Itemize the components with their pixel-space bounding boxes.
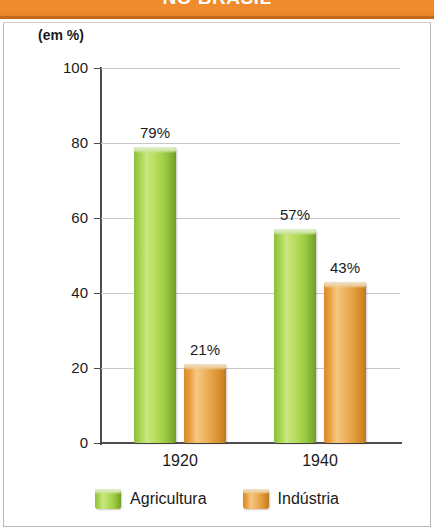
y-axis-tick bbox=[94, 218, 101, 219]
legend-label: Indústria bbox=[278, 490, 339, 508]
bar-cap bbox=[274, 229, 316, 235]
bar-value-label: 57% bbox=[262, 206, 328, 223]
legend-label: Agricultura bbox=[130, 490, 206, 508]
y-axis-tick-label: 80 bbox=[30, 134, 88, 151]
gridline bbox=[100, 68, 400, 69]
y-axis-tick-label: 20 bbox=[30, 359, 88, 376]
y-axis-tick-label: 40 bbox=[30, 284, 88, 301]
y-axis-tick-label: 100 bbox=[30, 59, 88, 76]
y-axis-tick-label: 60 bbox=[30, 209, 88, 226]
bar-cap bbox=[134, 147, 176, 153]
bar[interactable] bbox=[134, 147, 176, 443]
bar-cap bbox=[184, 364, 226, 370]
bar-value-label: 43% bbox=[312, 259, 378, 276]
y-axis-tick bbox=[94, 68, 101, 69]
y-axis-tick bbox=[94, 368, 101, 369]
cylinder-swatch-green-icon bbox=[95, 489, 121, 509]
y-axis-tick bbox=[94, 443, 101, 444]
y-axis-tick bbox=[94, 293, 101, 294]
bar-cap bbox=[324, 282, 366, 288]
legend-item-agricultura[interactable]: Agricultura bbox=[95, 489, 206, 509]
gridline bbox=[100, 143, 400, 144]
chart-figure: NO BRASIL (em %) 020406080100 79%21%57%4… bbox=[0, 0, 434, 532]
legend: Agricultura Indústria bbox=[0, 489, 434, 509]
bar-value-label: 79% bbox=[122, 124, 188, 141]
bar-value-label: 21% bbox=[172, 341, 238, 358]
cylinder-swatch-orange-icon bbox=[243, 489, 269, 509]
bar[interactable] bbox=[274, 229, 316, 443]
legend-item-industria[interactable]: Indústria bbox=[243, 489, 339, 509]
plot-area: 020406080100 79%21%57%43% 19201940 bbox=[0, 0, 434, 532]
y-axis-tick bbox=[94, 143, 101, 144]
bar[interactable] bbox=[324, 282, 366, 443]
x-axis-category-label: 1920 bbox=[135, 452, 225, 470]
bar[interactable] bbox=[184, 364, 226, 443]
y-axis-line bbox=[100, 67, 102, 445]
y-axis-tick-label: 0 bbox=[30, 434, 88, 451]
x-axis-category-label: 1940 bbox=[275, 452, 365, 470]
